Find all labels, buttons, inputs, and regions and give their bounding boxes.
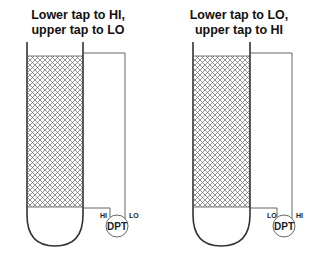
left-dpt-label: DPT: [107, 221, 127, 232]
left-diagram: DPT HI LO: [27, 42, 139, 246]
right-liquid-hatch: [194, 56, 250, 207]
left-lower-tap-label: HI: [100, 212, 107, 219]
left-upper-tap-label: LO: [129, 212, 139, 219]
right-upper-tap-line: [250, 53, 292, 221]
left-liquid-hatch: [28, 56, 83, 207]
left-upper-tap-line: [83, 53, 125, 221]
right-dpt-label: DPT: [274, 221, 294, 232]
right-upper-tap-label: HI: [296, 212, 303, 219]
right-lower-tap-label: LO: [267, 212, 277, 219]
dpt-level-diagrams: DPT HI LO DPT LO HI: [0, 0, 315, 257]
right-diagram: DPT LO HI: [193, 42, 303, 246]
